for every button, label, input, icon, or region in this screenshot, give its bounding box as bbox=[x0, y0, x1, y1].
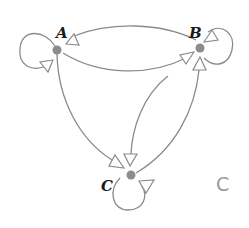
arrowhead-a-b bbox=[180, 52, 194, 64]
arrowhead-a-c bbox=[109, 155, 124, 168]
arrowhead-a-a bbox=[40, 60, 53, 72]
edge-c-b bbox=[136, 70, 199, 173]
node-b bbox=[196, 44, 205, 53]
panel-label: C bbox=[216, 173, 229, 195]
edge-a-c bbox=[57, 54, 112, 160]
arrowhead-b-a bbox=[66, 34, 79, 45]
edge-b-a bbox=[74, 26, 196, 40]
node-label-c: C bbox=[101, 177, 113, 195]
arrowhead-b-c bbox=[124, 154, 137, 166]
graph-diagram: A B C C bbox=[0, 0, 249, 228]
arrowhead-b-b bbox=[204, 30, 218, 42]
edge-a-b bbox=[63, 53, 186, 71]
edge-b-b bbox=[204, 28, 233, 64]
arrowhead-c-c bbox=[139, 180, 154, 193]
node-label-b: B bbox=[188, 24, 202, 42]
node-a bbox=[53, 46, 62, 55]
node-label-a: A bbox=[54, 24, 68, 42]
edge-b-c bbox=[131, 76, 168, 154]
node-c bbox=[127, 171, 136, 180]
